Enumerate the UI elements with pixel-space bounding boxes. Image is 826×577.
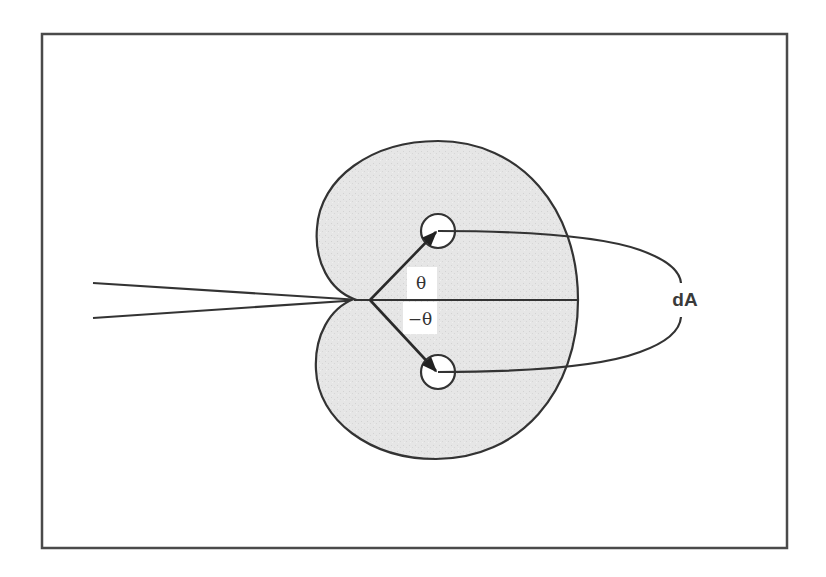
diagram-canvas: θ −θ dA <box>0 0 826 577</box>
theta-label: θ <box>416 273 426 293</box>
neg-theta-label: −θ <box>408 309 432 329</box>
lower-ray-line <box>93 300 360 318</box>
area-element-label: dA <box>672 289 698 310</box>
upper-ray-line <box>93 283 360 300</box>
incoming-rays <box>93 283 360 318</box>
